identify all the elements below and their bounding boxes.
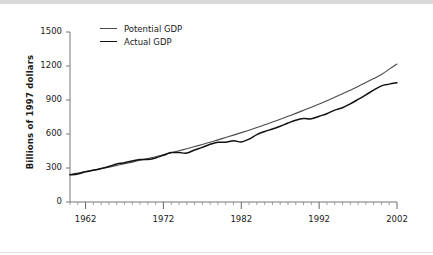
y-axis-tick-label: 900: [32, 94, 62, 104]
chart-legend: Potential GDP Actual GDP: [100, 22, 182, 48]
y-axis-tick-label: 0: [32, 196, 62, 206]
legend-swatch-potential-gdp: [100, 28, 117, 29]
y-axis-tick-label: 1500: [32, 26, 62, 36]
axis-lines: [70, 32, 397, 202]
y-axis-ticks: [66, 32, 70, 202]
y-axis-tick-label: 300: [32, 162, 62, 172]
y-axis-tick-label: 600: [32, 128, 62, 138]
legend-label-actual-gdp: Actual GDP: [124, 37, 172, 47]
x-axis-tick-label: 1982: [219, 214, 263, 224]
series-line-actual-gdp: [70, 83, 397, 175]
legend-swatch-actual-gdp: [100, 41, 117, 42]
chart-figure: Billions of 1997 dollars 030060090012001…: [0, 0, 433, 255]
x-axis-tick-label: 2002: [375, 214, 419, 224]
y-axis-tick-label: 1200: [32, 60, 62, 70]
legend-item-actual-gdp: Actual GDP: [100, 35, 182, 48]
series-line-potential-gdp: [70, 64, 397, 175]
x-axis-tick-label: 1962: [64, 214, 108, 224]
legend-item-potential-gdp: Potential GDP: [100, 22, 182, 35]
x-axis-tick-label: 1972: [141, 214, 185, 224]
x-axis-tick-label: 1992: [297, 214, 341, 224]
legend-label-potential-gdp: Potential GDP: [124, 24, 182, 34]
